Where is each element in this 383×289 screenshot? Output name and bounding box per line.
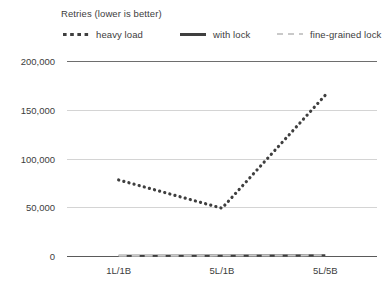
solid-line-swatch-icon [180,29,206,39]
plot-area: 050,000100,000150,000200,000 1L/1B5L/1B5… [67,61,377,256]
series-line-heavy-load [119,95,326,208]
y-axis-tick-label: 0 [0,251,55,262]
dashed-line-swatch-icon [277,29,303,39]
y-axis-tick-label: 150,000 [0,104,55,115]
chart-legend: heavy load with lock fine-grained lock [61,27,377,41]
legend-label: heavy load [96,29,143,40]
retries-chart: Retries (lower is better) heavy load wit… [0,0,383,289]
legend-label: with lock [213,29,250,40]
dotted-line-swatch-icon [63,29,89,39]
legend-label: fine-grained lock [310,29,381,40]
y-axis-tick-label: 50,000 [0,202,55,213]
x-axis-tick-label: 1L/1B [79,265,159,276]
series-layer [67,61,377,256]
x-axis-tick-label: 5L/1B [182,265,262,276]
y-axis-tick-label: 200,000 [0,56,55,67]
x-axis-tick-label: 5L/5B [285,265,365,276]
chart-title: Retries (lower is better) [61,8,162,19]
legend-item-heavy-load[interactable]: heavy load [63,27,143,41]
legend-item-with-lock[interactable]: with lock [180,27,250,41]
y-axis-tick-label: 100,000 [0,153,55,164]
legend-item-fine-grained-lock[interactable]: fine-grained lock [277,27,381,41]
